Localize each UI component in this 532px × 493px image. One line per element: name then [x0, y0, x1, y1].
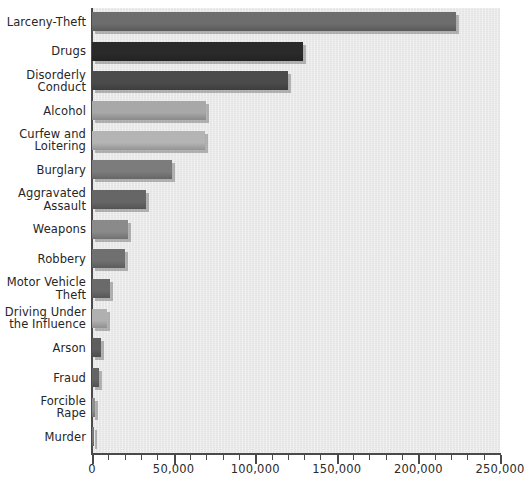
bar: [92, 101, 206, 120]
x-tick-label: 100,000: [231, 462, 280, 476]
bar: [92, 249, 125, 268]
bar-shadow: [95, 401, 98, 420]
bars-container: [92, 8, 500, 453]
bar-row: [92, 245, 500, 275]
y-category-label: Weapons: [0, 223, 86, 236]
bar: [92, 71, 288, 90]
y-axis-category-labels: Larceny-TheftDrugsDisorderly ConductAlco…: [0, 8, 86, 453]
bar-row: [92, 394, 500, 424]
bar: [92, 427, 94, 446]
x-tick-minor: [451, 455, 452, 460]
bar-row: [92, 38, 500, 68]
bar-row: [92, 423, 500, 453]
x-tick-minor: [190, 455, 191, 460]
bar: [92, 368, 99, 387]
y-category-label: Forcible Rape: [0, 395, 86, 420]
bar-row: [92, 305, 500, 335]
x-tick-minor: [206, 455, 207, 460]
y-category-label: Aggravated Assault: [0, 187, 86, 212]
x-tick-minor: [304, 455, 305, 460]
x-tick-minor: [239, 455, 240, 460]
x-axis-tick-labels: 050,000100,000150,000200,000250,000: [0, 462, 532, 482]
bar-shadow: [95, 430, 97, 449]
x-tick-minor: [157, 455, 158, 460]
bar-row: [92, 186, 500, 216]
y-category-label: Driving Under the Influence: [0, 306, 86, 331]
x-tick-minor: [223, 455, 224, 460]
x-tick-minor: [402, 455, 403, 460]
x-tick-minor: [369, 455, 370, 460]
y-category-label: Arson: [0, 342, 86, 355]
bar-row: [92, 275, 500, 305]
x-tick-label: 200,000: [394, 462, 443, 476]
bar-row: [92, 8, 500, 38]
x-tick-label: 0: [88, 462, 96, 476]
bar-row: [92, 127, 500, 157]
x-tick-minor: [125, 455, 126, 460]
chart-title-remnant: [180, 0, 350, 5]
y-category-label: Drugs: [0, 45, 86, 58]
x-tick-minor: [272, 455, 273, 460]
bar: [92, 190, 146, 209]
x-tick-label: 250,000: [476, 462, 525, 476]
x-tick-minor: [435, 455, 436, 460]
y-category-label: Disorderly Conduct: [0, 69, 86, 94]
bar: [92, 220, 128, 239]
x-tick-minor: [320, 455, 321, 460]
bar-chart: 050,000100,000150,000200,000250,000 Larc…: [0, 0, 532, 493]
x-tick-minor: [353, 455, 354, 460]
x-tick-minor: [386, 455, 387, 460]
bar: [92, 279, 110, 298]
bar: [92, 12, 456, 31]
y-category-label: Murder: [0, 431, 86, 444]
bar: [92, 131, 205, 150]
y-category-label: Curfew and Loitering: [0, 128, 86, 153]
y-category-label: Burglary: [0, 164, 86, 177]
y-category-label: Fraud: [0, 372, 86, 385]
x-tick-minor: [288, 455, 289, 460]
bar-row: [92, 364, 500, 394]
x-tick-minor: [141, 455, 142, 460]
bar-row: [92, 216, 500, 246]
y-category-label: Larceny-Theft: [0, 16, 86, 29]
x-tick-label: 150,000: [312, 462, 361, 476]
bar-row: [92, 334, 500, 364]
bar-row: [92, 67, 500, 97]
y-category-label: Robbery: [0, 253, 86, 266]
bar: [92, 338, 101, 357]
bar-row: [92, 156, 500, 186]
x-tick-minor: [467, 455, 468, 460]
bar: [92, 160, 172, 179]
bar: [92, 42, 303, 61]
y-category-label: Alcohol: [0, 105, 86, 118]
x-tick-minor: [108, 455, 109, 460]
bar: [92, 309, 107, 328]
x-tick-label: 50,000: [153, 462, 194, 476]
x-tick-minor: [484, 455, 485, 460]
y-category-label: Motor Vehicle Theft: [0, 276, 86, 301]
bar: [92, 398, 95, 417]
bar-row: [92, 97, 500, 127]
